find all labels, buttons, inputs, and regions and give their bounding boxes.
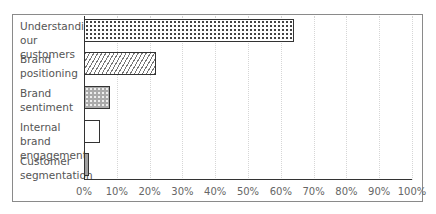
label-line: segmentation [20, 168, 82, 182]
plot-area [84, 16, 412, 180]
bar-understanding-our-customers [84, 19, 294, 42]
x-tick-label: 80% [335, 186, 357, 197]
x-tick-label: 0% [76, 186, 92, 197]
x-tick-label: 50% [237, 186, 259, 197]
label-line: positioning [20, 66, 82, 80]
label-line: Customer [20, 154, 82, 168]
x-tick-label: 40% [204, 186, 226, 197]
label-line: Brand [20, 86, 82, 100]
bar-internal-brand-engagement [84, 120, 100, 143]
bar-brand-sentiment [84, 86, 110, 109]
gridline [412, 16, 413, 180]
x-tick-label: 30% [171, 186, 193, 197]
category-label-3: Brand sentiment [20, 86, 82, 114]
y-axis [84, 16, 85, 180]
x-tick-label: 20% [138, 186, 160, 197]
x-tick-label: 10% [106, 186, 128, 197]
bar-brand-positioning [84, 52, 156, 75]
gridline [314, 16, 315, 180]
gridline [346, 16, 347, 180]
x-tick-label: 100% [398, 186, 427, 197]
category-label-2: Brand positioning [20, 52, 82, 80]
label-line: sentiment [20, 100, 82, 114]
gridline [379, 16, 380, 180]
category-label-5: Customer segmentation [20, 154, 82, 182]
x-axis [84, 179, 412, 180]
x-tick-label: 90% [368, 186, 390, 197]
label-line: Brand [20, 52, 82, 66]
label-line: Understanding [20, 19, 82, 33]
x-tick-label: 70% [302, 186, 324, 197]
x-tick-label: 60% [270, 186, 292, 197]
label-line: Internal brand [20, 120, 82, 148]
